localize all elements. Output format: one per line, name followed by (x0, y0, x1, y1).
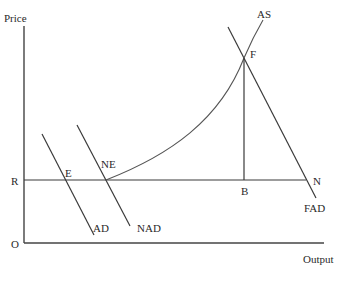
ad-as-diagram: Price Output O R AS AD NAD FAD E NE F B … (0, 0, 346, 282)
point-f-label: F (250, 48, 256, 60)
point-b-label: B (241, 185, 248, 197)
as-label: AS (257, 8, 271, 20)
nad-label: NAD (137, 222, 161, 234)
y-axis-label: Price (4, 12, 27, 24)
x-axis-label: Output (303, 253, 334, 265)
as-curve (106, 20, 263, 180)
fad-label: FAD (304, 202, 325, 214)
nad-curve (77, 125, 130, 226)
point-n-label: N (313, 175, 321, 187)
point-e-label: E (65, 167, 72, 179)
ad-label: AD (93, 222, 109, 234)
ad-curve (42, 134, 94, 235)
origin-label: O (11, 238, 19, 250)
price-level-r-label: R (11, 175, 19, 187)
fad-curve (228, 27, 316, 198)
point-ne-label: NE (101, 158, 116, 170)
